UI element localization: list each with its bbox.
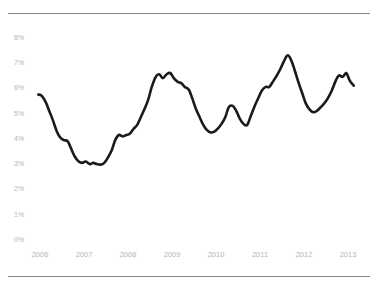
bottom-divider-rule — [8, 276, 370, 277]
chart-svg — [0, 0, 378, 294]
line-chart: 0%1%2%3%4%5%6%7%8% 200620072008200920102… — [0, 0, 378, 294]
y-tick-label-4pct: 4% — [14, 135, 24, 143]
y-tick-label-6pct: 6% — [14, 84, 24, 92]
y-tick-label-1pct: 1% — [14, 211, 24, 219]
y-tick-label-3pct: 3% — [14, 160, 24, 168]
y-tick-label-7pct: 7% — [14, 59, 24, 67]
x-tick-label-2008: 2008 — [113, 250, 143, 259]
y-tick-label-0pct: 0% — [14, 236, 24, 244]
x-tick-label-2006: 2006 — [25, 250, 55, 259]
x-tick-label-2010: 2010 — [201, 250, 231, 259]
x-tick-label-2011: 2011 — [245, 250, 275, 259]
y-tick-label-8pct: 8% — [14, 34, 24, 42]
x-tick-label-2009: 2009 — [157, 250, 187, 259]
series-line-rate — [38, 55, 353, 164]
y-tick-label-5pct: 5% — [14, 110, 24, 118]
x-tick-label-2012: 2012 — [289, 250, 319, 259]
x-tick-label-2007: 2007 — [69, 250, 99, 259]
y-tick-label-2pct: 2% — [14, 185, 24, 193]
chart-page: 0%1%2%3%4%5%6%7%8% 200620072008200920102… — [0, 0, 378, 294]
series-line-group — [38, 55, 353, 164]
x-tick-label-2013: 2013 — [333, 250, 363, 259]
